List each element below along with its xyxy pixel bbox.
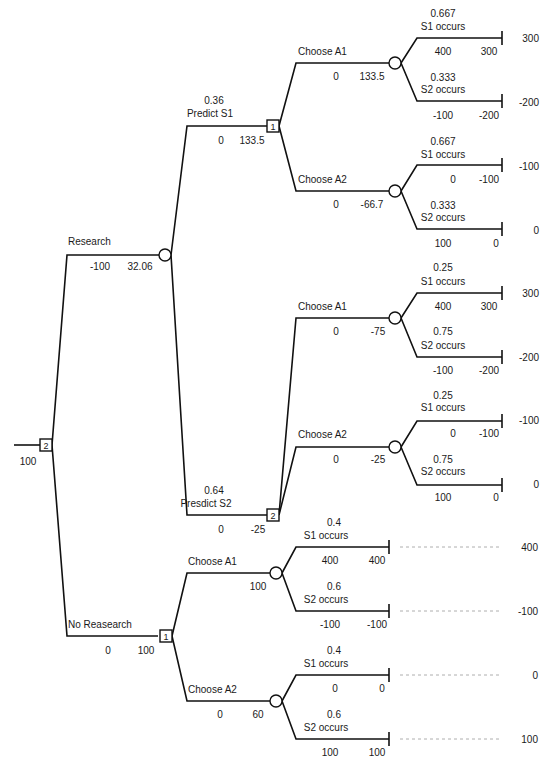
outcome-label: S2 occurs: [304, 722, 348, 733]
outcome-payoff: -100: [433, 365, 453, 376]
terminal-value: 0: [532, 670, 538, 681]
outcome-prob: 0.75: [433, 326, 453, 337]
outcome-label: S2 occurs: [304, 594, 348, 605]
outcome-cumulative: -100: [367, 619, 387, 630]
terminal-value: -200: [519, 97, 539, 108]
terminal-value: 300: [522, 288, 539, 299]
outcome-cumulative: -100: [479, 428, 499, 439]
branch-value: -25: [371, 454, 386, 465]
predict-s2-value: -25: [251, 524, 266, 535]
terminal-value: 400: [521, 542, 538, 553]
outcome-cumulative: 0: [493, 492, 499, 503]
chance-node: [270, 567, 282, 579]
branch-value: 133.5: [359, 71, 384, 82]
predict-s2-prob: 0.64: [204, 485, 224, 496]
outcome-label: S1 occurs: [421, 276, 465, 287]
outcome-prob: 0.667: [430, 8, 455, 19]
outcome-label: S2 occurs: [421, 84, 465, 95]
outcome-label: S2 occurs: [421, 466, 465, 477]
research-cost: -100: [90, 261, 110, 272]
node-number: 2: [43, 441, 48, 451]
terminal-value: -100: [518, 606, 538, 617]
outcome-payoff: 100: [435, 492, 452, 503]
branch-cost: 0: [333, 199, 339, 210]
root-value: 100: [20, 456, 37, 467]
outcome-payoff: 0: [450, 174, 456, 185]
outcome-prob: 0.6: [327, 709, 341, 720]
outcome-cumulative: 0: [379, 683, 385, 694]
outcome-label: S1 occurs: [421, 402, 465, 413]
predict-s1-value: 133.5: [239, 135, 264, 146]
terminal-value: -100: [519, 415, 539, 426]
branch-cost: 0: [333, 326, 339, 337]
outcome-prob: 0.333: [430, 200, 455, 211]
outcome-payoff: -100: [320, 619, 340, 630]
choose-a2-label: Choose A2: [298, 174, 347, 185]
choose-a1-label: Choose A1: [188, 556, 237, 567]
outcome-prob: 0.4: [327, 645, 341, 656]
predict-s2-cost: 0: [218, 524, 224, 535]
outcome-payoff: 0: [450, 428, 456, 439]
branch-value: -66.7: [361, 199, 384, 210]
branch-value: 60: [252, 709, 264, 720]
terminal-value: 100: [521, 734, 538, 745]
no-research-cost: 0: [105, 645, 111, 656]
outcome-payoff: 100: [435, 238, 452, 249]
outcome-prob: 0.25: [433, 262, 453, 273]
outcome-prob: 0.4: [327, 517, 341, 528]
no-research-value: 100: [138, 645, 155, 656]
branch-cost: 0: [333, 454, 339, 465]
branch-cost: 0: [217, 709, 223, 720]
no-research-label: No Reasearch: [68, 619, 132, 630]
predict-s1-prob: 0.36: [204, 95, 224, 106]
research-value: 32.06: [127, 261, 152, 272]
predict-s1-label: Predict S1: [187, 108, 234, 119]
decision-tree-diagram: 2 1 2 1 100 Research -100 32.06 0.36 Pre…: [0, 0, 548, 767]
outcome-label: S2 occurs: [421, 212, 465, 223]
outcome-label: S1 occurs: [421, 149, 465, 160]
outcome-payoff: -100: [433, 110, 453, 121]
outcome-prob: 0.6: [327, 581, 341, 592]
outcome-cumulative: -200: [479, 110, 499, 121]
outcome-prob: 0.75: [433, 454, 453, 465]
terminal-value: 0: [533, 225, 539, 236]
chance-node: [389, 312, 401, 324]
chance-node: [270, 695, 282, 707]
choose-a2-label: Choose A2: [298, 429, 347, 440]
outcome-payoff: 100: [322, 747, 339, 758]
chance-node: [389, 57, 401, 69]
outcome-payoff: 400: [435, 46, 452, 57]
outcome-cumulative: 300: [481, 46, 498, 57]
outcome-payoff: 0: [332, 683, 338, 694]
outcome-cumulative: 100: [369, 747, 386, 758]
outcome-payoff: 400: [322, 555, 339, 566]
outcome-label: S2 occurs: [421, 340, 465, 351]
node-number: 1: [270, 122, 275, 132]
outcome-prob: 0.333: [430, 72, 455, 83]
terminal-value: 300: [522, 33, 539, 44]
choose-a1-label: Choose A1: [298, 46, 347, 57]
outcome-payoff: 400: [435, 301, 452, 312]
branch-value: -75: [371, 326, 386, 337]
predict-s1-cost: 0: [218, 135, 224, 146]
outcome-cumulative: -200: [479, 365, 499, 376]
outcome-label: S1 occurs: [304, 530, 348, 541]
terminal-value: -100: [519, 161, 539, 172]
outcome-cumulative: -100: [479, 174, 499, 185]
chance-node: [389, 441, 401, 453]
research-label: Research: [68, 236, 111, 247]
outcome-cumulative: 400: [369, 555, 386, 566]
chance-node: [389, 185, 401, 197]
outcome-prob: 0.667: [430, 136, 455, 147]
research-chance-node: [159, 249, 171, 261]
predict-s2-label: Presdict S2: [180, 498, 232, 509]
outcome-cumulative: 0: [493, 238, 499, 249]
branch-cost: 0: [333, 71, 339, 82]
node-number: 1: [163, 632, 168, 642]
outcome-prob: 0.25: [433, 390, 453, 401]
choose-a2-label: Choose A2: [188, 684, 237, 695]
outcome-cumulative: 300: [481, 301, 498, 312]
outcome-label: S1 occurs: [304, 658, 348, 669]
terminal-value: 0: [533, 479, 539, 490]
node-number: 2: [270, 511, 275, 521]
